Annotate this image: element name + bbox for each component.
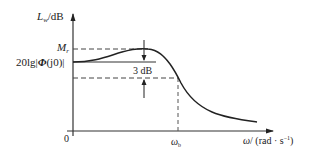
omega-b-label: ωb (171, 136, 181, 148)
dc-gain-label: 20lg|Φ(j0)| (16, 56, 65, 69)
mr-label: Mr (56, 41, 69, 55)
x-axis-label: ω/ (rad · s−1) (243, 135, 293, 147)
magnitude-curve (73, 49, 257, 122)
origin-label: 0 (64, 133, 69, 144)
y-axis-label: Lw/dB (36, 10, 64, 24)
3db-label: 3 dB (133, 65, 153, 76)
bandwidth-diagram: Lw/dB Mr 20lg|Φ(j0)| 3 dB 0 ωb ω/ (rad ·… (0, 0, 323, 159)
